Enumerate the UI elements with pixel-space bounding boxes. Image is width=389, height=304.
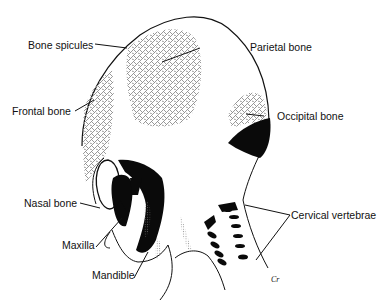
cervical-spicules xyxy=(180,215,192,250)
label-frontal-bone: Frontal bone xyxy=(12,106,71,117)
label-cervical-vertebrae: Cervical vertebrae xyxy=(291,210,376,221)
label-occipital-bone: Occipital bone xyxy=(277,111,344,122)
label-maxilla: Maxilla xyxy=(62,240,95,251)
label-bone-spicules: Bone spicules xyxy=(28,40,93,51)
artist-signature: Cr xyxy=(271,276,279,284)
cervical-vertebrae-shapes xyxy=(204,202,248,267)
parietal-bone-region xyxy=(126,29,201,126)
label-parietal-bone: Parietal bone xyxy=(250,42,312,53)
label-mandible: Mandible xyxy=(92,270,135,281)
label-nasal-bone: Nasal bone xyxy=(24,198,77,209)
